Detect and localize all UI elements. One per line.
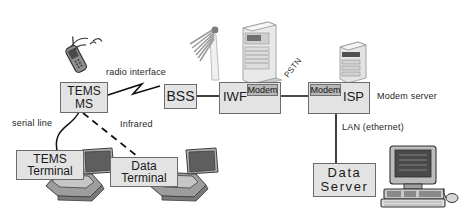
radio-interface-link [108,84,160,95]
node-iwf-modem-label: Modem [248,85,278,95]
node-tems-terminal[interactable]: TEMS Terminal [16,150,84,180]
node-tems-terminal-line2: Terminal [27,165,72,177]
node-isp-modem[interactable]: Modem [310,84,341,96]
node-data-terminal-line2: Terminal [121,172,166,184]
node-tems-ms[interactable]: TEMS MS [60,82,108,113]
serial-line-link [56,112,79,154]
node-isp-modem-label: Modem [311,85,341,95]
node-tems-ms-line2: MS [75,98,93,110]
node-data-terminal[interactable]: Data Terminal [110,157,178,187]
node-iwf-label: IWF [223,90,247,104]
label-serial-line: serial line [12,118,52,128]
server-tower-icon [340,42,366,83]
node-isp-label: ISP [343,90,364,104]
node-bss[interactable]: BSS [164,84,197,109]
label-modem-server: Modem server [377,91,437,101]
antenna-mast-icon [190,27,219,80]
label-lan-ethernet: LAN (ethernet) [342,122,404,132]
label-infrared: Infrared [120,119,153,129]
node-iwf-modem[interactable]: Modem [247,84,278,96]
node-data-server-line2: Server [321,180,369,194]
node-bss-label: BSS [166,89,194,104]
radio-wave-icon [71,38,102,51]
label-radio-interface: radio interface [106,67,166,77]
desktop-computer-icon [381,146,458,207]
server-cabinet-icon [243,22,282,86]
node-data-server-line1: Data [328,166,362,180]
node-tems-ms-line1: TEMS [67,85,100,97]
node-data-server[interactable]: Data Server [313,163,376,197]
network-diagram: TEMS MS BSS IWF Modem ISP Modem TEMS Ter… [0,0,461,212]
